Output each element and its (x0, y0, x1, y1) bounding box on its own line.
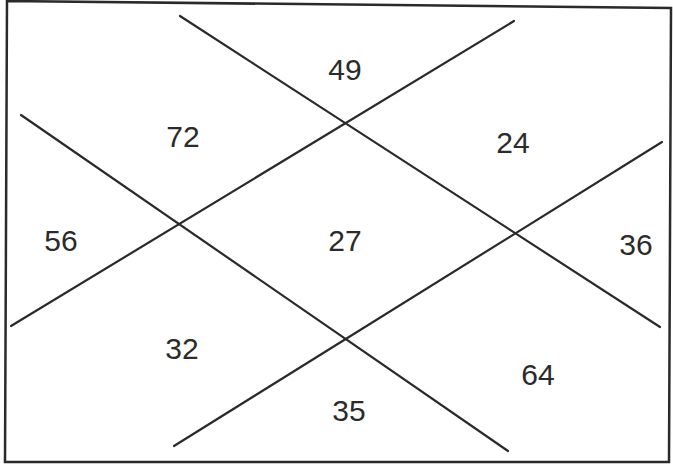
region-number-lower-left: 32 (165, 334, 198, 364)
region-number-center: 27 (328, 226, 361, 256)
region-number-bottom: 35 (332, 396, 365, 426)
region-number-lower-right: 64 (521, 360, 554, 390)
region-number-top: 49 (328, 55, 361, 85)
region-number-upper-left: 72 (166, 122, 199, 152)
region-number-right: 36 (619, 230, 652, 260)
region-number-left: 56 (44, 226, 77, 256)
crossing-line-1 (180, 16, 660, 327)
crossing-line-4 (174, 142, 662, 446)
number-puzzle-diagram: 49 72 24 56 27 36 32 64 35 (0, 0, 673, 466)
region-number-upper-right: 24 (496, 128, 529, 158)
